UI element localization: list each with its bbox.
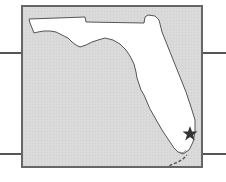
connector-line-left-top — [0, 52, 21, 54]
connector-line-left-bottom — [0, 153, 21, 155]
map-frame — [21, 5, 203, 168]
connector-line-right-bottom — [203, 153, 226, 155]
florida-map — [23, 7, 203, 168]
connector-line-right-top — [203, 52, 226, 54]
